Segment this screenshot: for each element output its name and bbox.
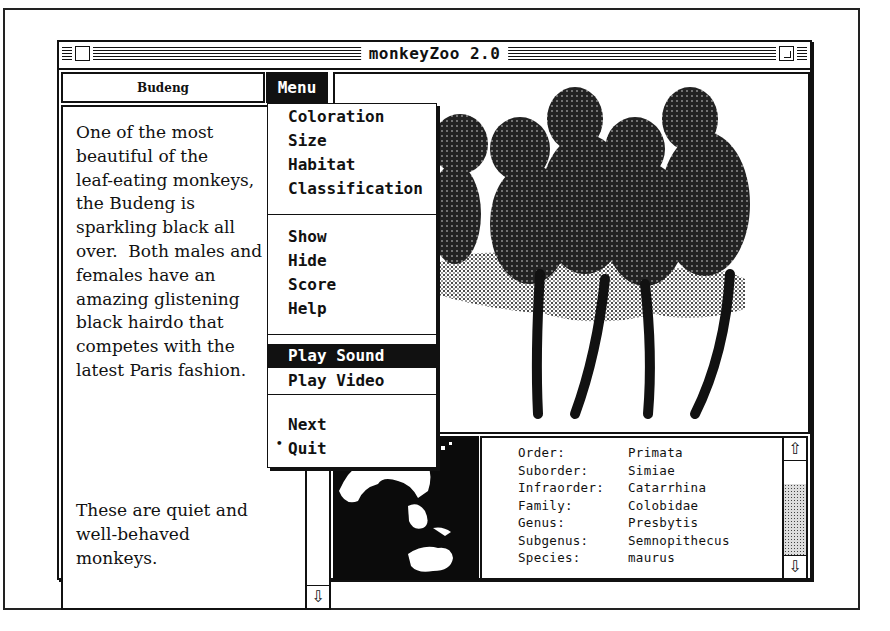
menu-item-hide[interactable]: Hide	[268, 249, 436, 273]
menu-item-size[interactable]: Size	[268, 129, 436, 153]
text-line: monkeys.	[76, 547, 305, 571]
scroll-down-icon[interactable]: ⇩	[784, 555, 806, 578]
menu-mark-icon: •	[276, 437, 283, 450]
rank-value: maurus	[628, 549, 675, 567]
scroll-up-icon[interactable]: ⇧	[784, 438, 806, 461]
menu-item-next[interactable]: Next	[268, 413, 436, 437]
scroll-track[interactable]	[784, 484, 806, 556]
window-content: Budeng Menu One of the mostbeautiful of …	[61, 72, 808, 576]
text-line: These are quiet and	[76, 499, 305, 523]
classification-pane[interactable]: Order:PrimataSuborder:SimiaeInfraorder:C…	[480, 436, 808, 580]
menu-item-play-sound[interactable]: Play Sound	[268, 344, 436, 368]
rank-value: Catarrhina	[628, 479, 706, 497]
classification-scrollbar[interactable]: ⇧ ⇩	[782, 438, 806, 578]
close-box-icon[interactable]	[75, 46, 90, 61]
menu-item-help[interactable]: Help	[268, 297, 436, 321]
dropdown-menu: ColorationSizeHabitatClassificationShowH…	[267, 103, 437, 468]
rank-label: Infraorder:	[518, 479, 628, 497]
classification-table: Order:PrimataSuborder:SimiaeInfraorder:C…	[518, 444, 730, 567]
rank-label: Order:	[518, 444, 628, 462]
rank-label: Subgenus:	[518, 532, 628, 550]
classification-row: Infraorder:Catarrhina	[518, 479, 730, 497]
classification-row: Subgenus:Semnopithecus	[518, 532, 730, 550]
menu-item-coloration[interactable]: Coloration	[268, 105, 436, 129]
title-stripes	[797, 47, 807, 62]
menu-item-classification[interactable]: Classification	[268, 177, 436, 201]
note-text: These are quiet andwell-behavedmonkeys.	[76, 499, 305, 570]
text-line: well-behaved	[76, 523, 305, 547]
classification-row: Species:maurus	[518, 549, 730, 567]
rank-label: Suborder:	[518, 462, 628, 480]
classification-row: Suborder:Simiae	[518, 462, 730, 480]
title-bar[interactable]: monkeyZoo 2.0	[59, 42, 810, 70]
menu-item-play-video[interactable]: Play Video	[268, 369, 436, 393]
rank-label: Family:	[518, 497, 628, 515]
menu-separator	[268, 334, 436, 335]
classification-row: Genus:Presbytis	[518, 514, 730, 532]
rank-value: Semnopithecus	[628, 532, 730, 550]
menu-item-show[interactable]: Show	[268, 225, 436, 249]
app-window: monkeyZoo 2.0 Budeng Menu One of the mos…	[57, 40, 812, 580]
rank-label: Species:	[518, 549, 628, 567]
menu-item-habitat[interactable]: Habitat	[268, 153, 436, 177]
rank-value: Colobidae	[628, 497, 698, 515]
rank-value: Primata	[628, 444, 683, 462]
animal-name-label: Budeng	[61, 72, 265, 103]
classification-row: Family:Colobidae	[518, 497, 730, 515]
window-title: monkeyZoo 2.0	[361, 44, 509, 64]
menu-separator	[268, 214, 436, 215]
menu-item-quit[interactable]: Quit	[268, 437, 436, 461]
scroll-down-icon[interactable]: ⇩	[307, 585, 329, 608]
menu-separator	[268, 394, 436, 395]
menu-button[interactable]: Menu	[266, 72, 328, 103]
menu-item-score[interactable]: Score	[268, 273, 436, 297]
rank-label: Genus:	[518, 514, 628, 532]
zoom-box-icon[interactable]	[779, 46, 794, 61]
rank-value: Presbytis	[628, 514, 698, 532]
rank-value: Simiae	[628, 462, 675, 480]
classification-row: Order:Primata	[518, 444, 730, 462]
title-stripes	[62, 47, 72, 62]
scroll-thumb[interactable]	[784, 460, 806, 486]
